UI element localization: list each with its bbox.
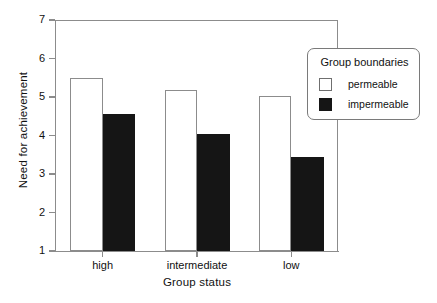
legend-swatch-permeable-icon bbox=[319, 78, 332, 91]
x-tick bbox=[196, 251, 197, 257]
y-tick bbox=[49, 135, 55, 136]
y-tick-label: 2 bbox=[26, 207, 45, 218]
legend-title: Group boundaries bbox=[308, 56, 421, 68]
legend-box: Group boundaries permeable impermeable bbox=[307, 48, 420, 120]
y-tick-label: 6 bbox=[26, 53, 45, 64]
legend-label-permeable: permeable bbox=[348, 78, 398, 91]
bar-chart-figure: Need for achievement 1234567 highinterme… bbox=[0, 0, 437, 303]
y-tick-label: 4 bbox=[26, 130, 45, 141]
legend-label-impermeable: impermeable bbox=[348, 98, 409, 111]
bar-high-permeable bbox=[70, 78, 103, 251]
bar-intermediate-permeable bbox=[165, 90, 198, 251]
x-tick bbox=[102, 251, 103, 257]
y-tick bbox=[49, 173, 55, 174]
legend-swatch-impermeable-icon bbox=[319, 98, 332, 111]
bar-low-impermeable bbox=[291, 157, 324, 251]
y-tick bbox=[49, 250, 55, 251]
x-tick bbox=[291, 251, 292, 257]
y-tick bbox=[49, 58, 55, 59]
legend-item-permeable: permeable bbox=[317, 77, 421, 93]
y-tick-label: 1 bbox=[26, 245, 45, 256]
y-tick-label: 5 bbox=[26, 91, 45, 102]
x-axis-title: Group status bbox=[55, 276, 339, 288]
legend-item-impermeable: impermeable bbox=[317, 97, 421, 113]
bar-low-permeable bbox=[259, 96, 292, 251]
bar-high-impermeable bbox=[103, 114, 136, 251]
y-tick bbox=[49, 19, 55, 20]
y-tick bbox=[49, 212, 55, 213]
x-tick-label-low: low bbox=[231, 259, 351, 271]
y-tick-label: 3 bbox=[26, 168, 45, 179]
y-tick bbox=[49, 96, 55, 97]
bar-intermediate-impermeable bbox=[197, 134, 230, 251]
y-tick-label: 7 bbox=[26, 14, 45, 25]
